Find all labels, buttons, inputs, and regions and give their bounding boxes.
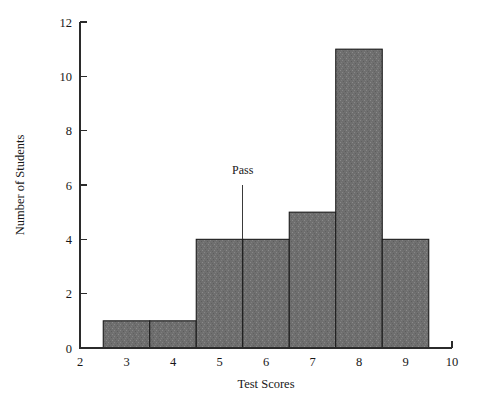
y-axis-tick-label: 2 [66,287,72,301]
y-axis-tick-label: 0 [66,342,72,356]
y-axis-tick-label: 6 [66,179,72,193]
chart-canvas: Pass 0246810122345678910Test ScoresNumbe… [0,0,477,400]
y-axis-tick-label: 12 [60,16,73,30]
histogram-bar [382,239,429,348]
histogram-bar [243,239,290,348]
annotations-group: Pass [232,163,254,239]
histogram-bar [103,321,150,348]
histogram-bar [336,49,383,348]
x-axis-tick-label: 5 [216,355,222,369]
x-axis-tick-label: 9 [402,355,408,369]
y-axis-title: Number of Students [13,135,27,236]
bars-group [103,49,429,348]
histogram-bar [150,321,197,348]
x-axis-title: Test Scores [237,377,294,391]
histogram-chart: Pass 0246810122345678910Test ScoresNumbe… [0,0,477,400]
y-axis-tick-label: 10 [60,70,73,84]
histogram-bar [289,212,336,348]
x-axis-tick-label: 4 [170,355,177,369]
x-axis-tick-label: 6 [263,355,269,369]
histogram-bar [196,239,243,348]
x-axis-tick-label: 10 [446,355,459,369]
pass-marker-label: Pass [232,163,254,177]
x-axis-tick-label: 8 [356,355,362,369]
y-axis-tick-label: 4 [66,233,73,247]
x-axis-tick-label: 7 [309,355,315,369]
x-axis-tick-label: 2 [77,355,83,369]
x-axis-tick-label: 3 [123,355,129,369]
y-axis-tick-label: 8 [66,124,72,138]
